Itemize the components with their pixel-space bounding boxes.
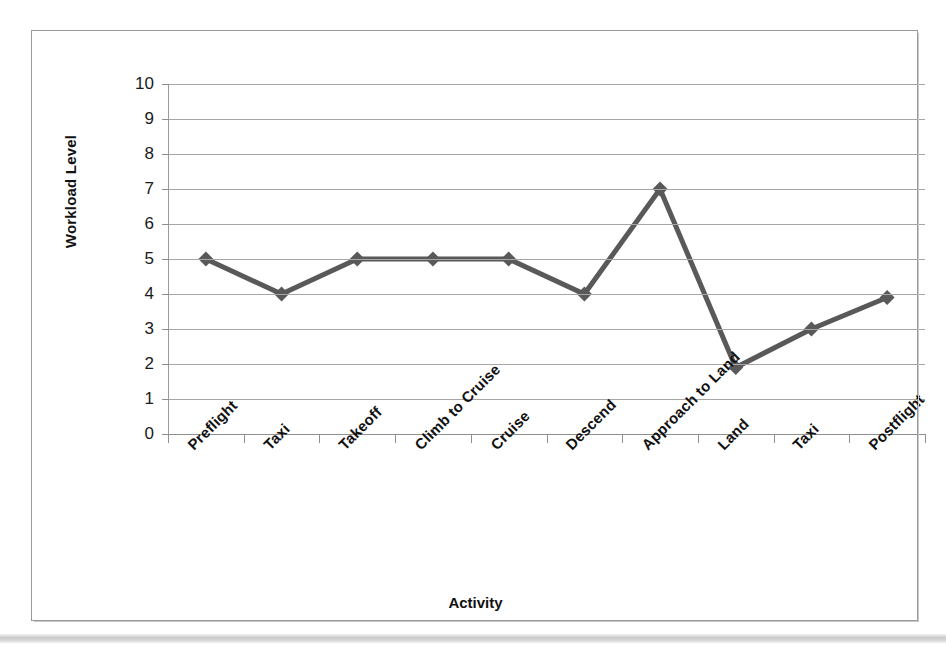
y-axis-tick [162, 84, 169, 85]
gridline [168, 329, 925, 330]
y-axis-tick-label: 8 [114, 145, 154, 162]
y-axis-tick [162, 224, 169, 225]
y-axis-tick [162, 399, 169, 400]
x-axis-tick [395, 435, 396, 443]
gridline [168, 399, 925, 400]
y-axis-tick [162, 189, 169, 190]
gridline [168, 364, 925, 365]
x-axis-tick [925, 435, 926, 443]
plot-area [168, 84, 925, 434]
y-axis-tick-label: 1 [114, 390, 154, 407]
y-axis-tick-label: 9 [114, 110, 154, 127]
y-axis-tick-label: 0 [114, 425, 154, 442]
y-axis-tick [162, 364, 169, 365]
y-axis-tick [162, 119, 169, 120]
y-axis-tick-label: 5 [114, 250, 154, 267]
gridline [168, 154, 925, 155]
y-axis-tick-label: 10 [114, 75, 154, 92]
y-axis-tick-label: 2 [114, 355, 154, 372]
gridline [168, 259, 925, 260]
series-line [206, 189, 887, 368]
y-axis-tick-labels: 012345678910 [110, 31, 154, 620]
y-axis-tick-label: 4 [114, 285, 154, 302]
y-axis-tick [162, 329, 169, 330]
chart-frame: Workload Level 012345678910 Activity Pre… [31, 30, 918, 621]
x-axis-tick [849, 435, 850, 443]
y-axis-tick [162, 294, 169, 295]
data-point-marker[interactable] [880, 290, 895, 305]
y-axis-tick-label: 6 [114, 215, 154, 232]
gridline [168, 224, 925, 225]
x-axis-tick [622, 435, 623, 443]
gridline [168, 119, 925, 120]
x-axis-tick [471, 435, 472, 443]
x-axis-title: Activity [32, 594, 919, 611]
x-axis-tick [244, 435, 245, 443]
x-axis-tick [774, 435, 775, 443]
y-axis-tick-label: 7 [114, 180, 154, 197]
x-axis-tick [168, 435, 169, 443]
gridline [168, 294, 925, 295]
y-axis-title: Workload Level [62, 92, 79, 292]
y-axis-tick [162, 154, 169, 155]
x-axis-tick [319, 435, 320, 443]
x-axis-tick [698, 435, 699, 443]
scan-artifact-bar [0, 634, 946, 643]
gridline [168, 189, 925, 190]
y-axis-tick [162, 259, 169, 260]
gridline [168, 84, 925, 85]
y-axis-tick-label: 3 [114, 320, 154, 337]
x-axis-tick [547, 435, 548, 443]
